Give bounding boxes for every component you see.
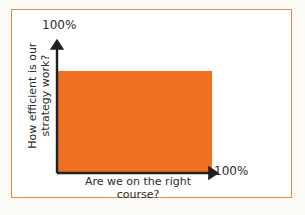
x-axis-title: Are we on the right course?	[68, 176, 208, 201]
y-axis-title-line1: How efficient is our	[26, 43, 39, 149]
x-axis-title-line2: course?	[117, 188, 160, 201]
x-axis-max-label: 100%	[214, 165, 248, 178]
diagram-frame: 100% 100% How efficient is our strategy …	[11, 9, 292, 198]
y-axis-title-line2: strategy work?	[39, 55, 52, 137]
y-axis-title: How efficient is our strategy work?	[27, 21, 52, 171]
x-axis-title-line1: Are we on the right	[85, 175, 191, 188]
axis-lines	[12, 10, 293, 199]
plot-area: 100% 100% How efficient is our strategy …	[12, 10, 293, 199]
